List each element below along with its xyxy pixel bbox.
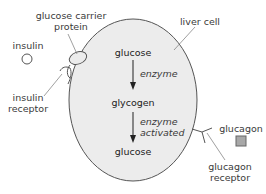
glucagon-receptor-label: glucagon receptor — [205, 161, 255, 183]
glucagon-label: glucagon — [218, 123, 264, 134]
glucagon-receptor-leader-line — [207, 133, 225, 160]
pathway-step-glucose: glucose — [108, 47, 158, 58]
carrier-leader-line — [68, 34, 77, 54]
arrow-label-enzyme: enzyme — [140, 68, 180, 79]
insulin-molecule-icon — [22, 54, 32, 64]
insulin-label: insulin — [6, 40, 50, 51]
arrow-label-enzyme-activated: enzyme activated — [140, 116, 190, 138]
insulin-receptor-label: insulin receptor — [6, 92, 50, 114]
glucagon-molecule-icon — [236, 136, 246, 146]
glucose-carrier-protein-label: glucose carrier protein — [28, 10, 114, 32]
pathway-step-glucose-final: glucose — [108, 146, 158, 157]
liver-cell-leader-line — [174, 27, 195, 50]
liver-cell-label: liver cell — [178, 16, 222, 27]
pathway-step-glycogen: glycogen — [104, 97, 162, 108]
